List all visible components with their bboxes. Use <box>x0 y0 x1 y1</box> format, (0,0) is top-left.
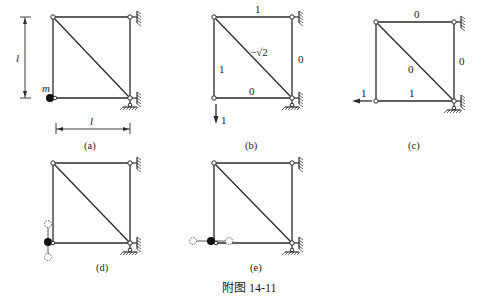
hinge-node-icon <box>212 161 216 165</box>
hinge-node-icon <box>128 241 132 245</box>
panel-c: 0 0 0 1 1 (c) <box>352 8 465 152</box>
force-left: 1 <box>219 63 225 75</box>
hinge-node-icon <box>290 96 294 100</box>
panel-b-caption: (b) <box>245 140 258 152</box>
hinge-node-icon <box>290 161 294 165</box>
hinge-node-icon <box>128 161 132 165</box>
truss-figure: m l l (a) <box>0 0 482 298</box>
hinge-node-icon <box>452 20 456 24</box>
displaced-mass-icon <box>190 238 197 245</box>
mass-label: m <box>42 82 50 94</box>
load-label: 1 <box>221 114 227 126</box>
panel-c-caption: (c) <box>408 140 420 152</box>
truss-members <box>214 163 292 243</box>
hinge-node-icon <box>212 96 216 100</box>
panel-a: m l l (a) <box>16 11 141 152</box>
force-right: 0 <box>459 55 465 67</box>
hinge-node-icon <box>53 96 57 100</box>
truss-members <box>376 22 454 101</box>
vertical-dimension: l <box>16 17 31 98</box>
force-top: 1 <box>255 3 261 15</box>
panel-e-caption: (e) <box>250 262 262 274</box>
hinge-node-icon <box>374 20 378 24</box>
force-diagonal: 0 <box>408 63 414 75</box>
displaced-mass-icon <box>226 238 233 245</box>
hinge-node-icon <box>452 99 456 103</box>
panel-d-caption: (d) <box>96 262 109 274</box>
dim-vertical-label: l <box>16 52 19 64</box>
hinge-node-icon <box>128 15 132 19</box>
force-top: 0 <box>414 8 420 20</box>
truss-members <box>53 163 130 243</box>
panel-b: 1 −√2 1 0 0 1 (b) <box>212 3 304 152</box>
hinge-node-icon <box>290 241 294 245</box>
hinge-node-icon <box>128 96 132 100</box>
load-label: 1 <box>361 87 367 99</box>
horizontal-vibration-mode <box>190 237 233 245</box>
truss-members <box>53 17 130 98</box>
horizontal-dimension: l <box>56 115 130 134</box>
dim-horizontal-label: l <box>90 115 93 127</box>
hinge-node-icon <box>290 15 294 19</box>
arrow-left-icon <box>352 99 372 104</box>
force-bottom: 1 <box>409 87 415 99</box>
panel-a-caption: (a) <box>84 140 96 152</box>
hinge-node-icon <box>51 15 55 19</box>
lumped-mass-icon <box>207 237 215 245</box>
lumped-mass-icon <box>44 238 52 246</box>
figure-caption: 附图 14-11 <box>222 281 277 295</box>
hinge-node-icon <box>374 99 378 103</box>
force-diagonal: −√2 <box>250 46 268 58</box>
hinge-node-icon <box>51 241 55 245</box>
arrow-down-icon <box>214 104 219 124</box>
panel-e: (e) <box>190 157 304 274</box>
hinge-node-icon <box>51 161 55 165</box>
hinge-node-icon <box>214 241 218 245</box>
force-bottom: 0 <box>249 85 255 97</box>
force-right: 0 <box>298 53 304 65</box>
hinge-node-icon <box>212 15 216 19</box>
displaced-mass-icon <box>45 221 52 228</box>
panel-d: (d) <box>44 157 141 274</box>
displaced-mass-icon <box>45 254 52 261</box>
